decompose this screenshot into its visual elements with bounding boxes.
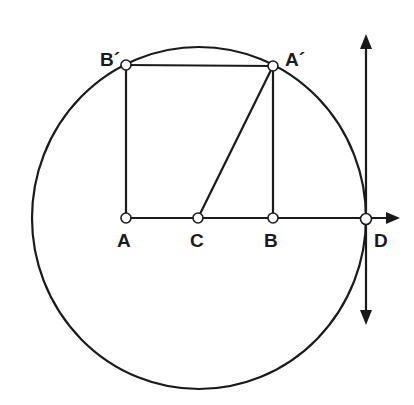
segment-C-Aprime [198,66,273,218]
label-B: B [264,230,278,251]
segment-Bprime-Aprime [126,65,273,66]
point-Aprime [268,61,278,71]
point-A [121,213,131,223]
axis-arrow-right-icon [386,212,400,224]
geometry-diagram: A C B D B´ A´ [0,0,414,405]
tangent-arrow-down-icon [360,310,372,325]
label-Bprime: B´ [100,49,120,70]
point-B [268,213,278,223]
label-C: C [190,230,204,251]
point-C [193,213,203,223]
point-D [361,214,372,225]
tangent-arrow-up-icon [360,34,372,49]
point-Bprime [121,60,131,70]
label-Aprime: A´ [285,49,305,70]
label-A: A [117,230,131,251]
label-D: D [374,230,388,251]
